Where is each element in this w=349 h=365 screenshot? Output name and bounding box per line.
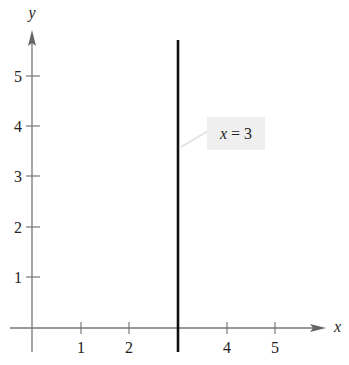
x-tick-label: 1 (77, 339, 85, 356)
graph-figure: 1 2 4 5 5 4 3 2 1 x y x = 3 (0, 0, 349, 365)
y-ticks (26, 76, 40, 277)
y-tick-label: 1 (14, 269, 22, 286)
graph-canvas: 1 2 4 5 5 4 3 2 1 x y x = 3 (0, 0, 349, 365)
y-tick-label: 3 (14, 168, 22, 185)
y-tick-label: 5 (14, 68, 22, 85)
x-tick-label: 5 (271, 339, 279, 356)
y-tick-label: 2 (14, 219, 22, 236)
annotation-label: x = 3 (219, 125, 252, 142)
x-tick-label: 4 (223, 339, 231, 356)
y-tick-label: 4 (14, 118, 22, 135)
x-tick-label: 2 (125, 339, 133, 356)
x-axis-label: x (333, 318, 341, 335)
y-axis-label: y (26, 4, 36, 22)
annotation-leader (181, 131, 208, 147)
